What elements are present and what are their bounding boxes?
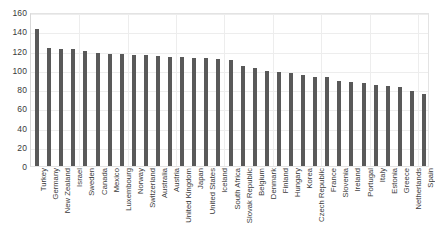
bar <box>277 72 281 166</box>
bar <box>337 81 341 166</box>
x-tick-label: Turkey <box>39 168 48 191</box>
bar <box>47 48 51 166</box>
x-tick-label: France <box>329 168 338 192</box>
x-tick-label: New Zealand <box>63 168 72 213</box>
bar <box>398 87 402 166</box>
x-tick-label: Korea <box>305 168 314 189</box>
bar <box>192 58 196 166</box>
x-tick-label: Slovak Republic <box>245 168 254 223</box>
x-tick-label: Canada <box>100 168 109 195</box>
bar <box>362 83 366 166</box>
bar <box>241 66 245 166</box>
y-axis: 020406080100120140160 <box>0 0 30 249</box>
x-tick-label: United States <box>208 168 217 214</box>
plot-area <box>30 13 429 167</box>
x-tick-label: Luxembourg <box>124 168 133 211</box>
y-tick-label: 120 <box>13 47 27 57</box>
bar-series <box>31 14 428 166</box>
bar <box>386 86 390 166</box>
bar <box>325 77 329 166</box>
x-tick-label: South Africa <box>233 168 242 210</box>
x-tick-label: Finland <box>281 168 290 193</box>
bar <box>59 49 63 166</box>
x-tick-label: Greece <box>402 168 411 193</box>
x-tick-label: Norway <box>136 168 145 194</box>
x-tick-label: Spain <box>426 168 435 188</box>
x-tick-label: Belgium <box>257 168 266 196</box>
bar <box>108 54 112 166</box>
bar <box>204 58 208 166</box>
bar <box>253 68 257 166</box>
x-tick-label: Germany <box>51 168 60 200</box>
bar <box>156 56 160 166</box>
bar <box>349 82 353 166</box>
bar <box>289 73 293 166</box>
x-tick-label: Austria <box>172 168 181 192</box>
x-tick-label: Hungary <box>293 168 302 197</box>
x-tick-label: Netherlands <box>414 168 423 210</box>
x-tick-label: Estonia <box>390 168 399 194</box>
y-tick-label: 0 <box>22 162 27 172</box>
y-tick-label: 40 <box>17 124 27 134</box>
bar <box>83 51 87 167</box>
x-tick-label: Slovenia <box>341 168 350 198</box>
bar <box>313 77 317 167</box>
bar <box>180 57 184 166</box>
x-tick-label: Australia <box>160 168 169 198</box>
bar <box>71 49 75 166</box>
bar <box>216 59 220 166</box>
bar <box>265 71 269 166</box>
y-tick-label: 160 <box>13 8 27 18</box>
bar <box>120 54 124 166</box>
x-tick-label: Czech Republic <box>317 168 326 222</box>
bar <box>96 53 100 166</box>
x-tick-label: Ireland <box>353 168 362 192</box>
bar <box>168 57 172 166</box>
x-tick-label: Sweden <box>87 168 96 196</box>
y-tick-label: 20 <box>17 143 27 153</box>
x-tick-label: Iceland <box>220 168 229 193</box>
x-tick-label: Italy <box>378 168 387 182</box>
bar <box>132 55 136 166</box>
x-tick-label: Portugal <box>366 168 375 197</box>
bar <box>144 55 148 166</box>
bar <box>229 60 233 166</box>
y-tick-label: 140 <box>13 27 27 37</box>
y-tick-label: 100 <box>13 66 27 76</box>
bar <box>374 85 378 166</box>
bar <box>35 29 39 166</box>
y-tick-label: 60 <box>17 104 27 114</box>
bar <box>422 94 426 166</box>
y-tick-label: 80 <box>17 85 27 95</box>
x-tick-label: Denmark <box>269 168 278 199</box>
x-tick-label: United Kingdom <box>184 168 193 223</box>
x-tick-label: Israel <box>75 168 84 187</box>
x-tick-label: Mexico <box>112 168 121 192</box>
x-tick-label: Switzerland <box>148 168 157 208</box>
bar <box>301 75 305 166</box>
bar <box>410 91 414 166</box>
x-axis-labels: TurkeyGermanyNew ZealandIsraelSwedenCana… <box>30 168 429 249</box>
x-tick-label: Japan <box>196 168 205 189</box>
